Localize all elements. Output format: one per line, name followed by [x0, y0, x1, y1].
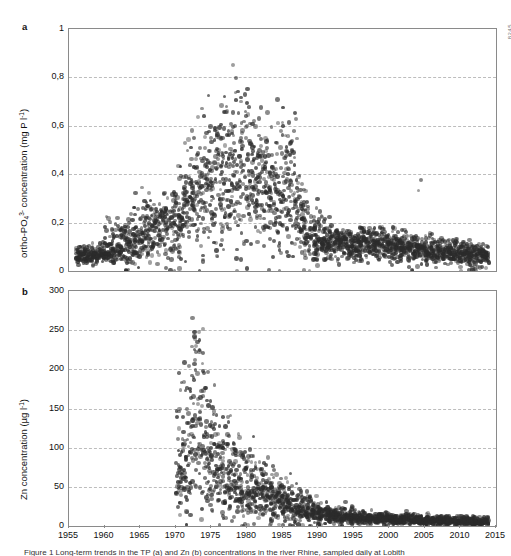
data-point [190, 418, 195, 423]
data-point [289, 178, 292, 181]
data-point [168, 268, 172, 272]
data-point [207, 94, 211, 98]
data-point [253, 500, 257, 504]
data-point [197, 330, 201, 334]
data-point [173, 269, 176, 272]
data-point [224, 189, 228, 193]
data-point [182, 235, 185, 238]
data-point [103, 236, 107, 240]
data-point [193, 197, 197, 201]
data-point [298, 174, 301, 177]
data-point [119, 244, 123, 248]
data-point [312, 257, 317, 262]
data-point [226, 225, 229, 228]
data-point [256, 516, 260, 520]
data-point [229, 414, 232, 417]
data-point [192, 378, 196, 382]
data-point [182, 185, 186, 189]
data-point [275, 152, 279, 156]
data-point [291, 255, 295, 259]
x-tick-label: 1955 [58, 530, 78, 540]
data-point [244, 239, 248, 243]
x-tick-label: 1975 [200, 530, 220, 540]
panel-b-letter: b [22, 286, 28, 297]
data-point [219, 136, 223, 140]
data-point [302, 234, 307, 239]
data-point [238, 202, 242, 206]
data-point [382, 522, 386, 526]
data-point [468, 263, 472, 267]
data-point [210, 195, 213, 198]
data-point [130, 218, 134, 222]
y-tick-label: 250 [30, 324, 64, 334]
data-point [204, 386, 208, 390]
data-point [133, 191, 137, 195]
data-point [214, 221, 217, 224]
data-point [201, 259, 205, 263]
data-point [132, 206, 136, 210]
data-point [289, 160, 293, 164]
data-point [149, 245, 152, 248]
data-point [325, 233, 328, 236]
data-point [153, 210, 157, 214]
data-point [207, 480, 210, 483]
data-point [126, 217, 131, 222]
data-point [242, 163, 246, 167]
data-point [74, 256, 78, 260]
data-point [415, 236, 419, 240]
data-point [274, 161, 278, 165]
data-point [340, 524, 343, 527]
data-point [227, 507, 231, 511]
data-point [176, 505, 180, 509]
x-tick-label: 1970 [165, 530, 185, 540]
data-point [274, 172, 278, 176]
data-point [209, 446, 213, 450]
data-point [138, 248, 142, 252]
data-point [315, 263, 320, 268]
data-point [166, 237, 169, 240]
data-point [270, 153, 274, 157]
data-point [222, 126, 227, 131]
data-point [245, 459, 249, 463]
data-point [191, 223, 195, 227]
x-tick-label: 1965 [129, 530, 149, 540]
data-point [387, 515, 391, 519]
data-point [206, 370, 210, 374]
data-point [251, 171, 255, 175]
data-point [147, 191, 151, 195]
data-point [278, 269, 282, 272]
data-point [434, 266, 438, 270]
data-point [190, 316, 194, 320]
data-point [232, 153, 235, 156]
data-point [198, 146, 202, 150]
x-tick-mark [282, 525, 283, 528]
data-point [247, 105, 251, 109]
data-point [255, 240, 260, 245]
data-point [208, 149, 212, 153]
data-point [264, 504, 268, 508]
data-point [178, 453, 182, 457]
data-point [197, 179, 201, 183]
data-point [253, 124, 258, 129]
data-point [104, 228, 109, 233]
data-point [184, 174, 188, 178]
data-point [174, 201, 178, 205]
data-point [213, 450, 217, 454]
data-point [197, 445, 200, 448]
data-point [195, 371, 200, 376]
data-point [308, 524, 312, 527]
data-point [162, 191, 166, 195]
data-point [218, 491, 221, 494]
data-point [177, 371, 180, 374]
panel-b-plot-area [68, 290, 497, 527]
data-point [304, 240, 308, 244]
data-point [179, 165, 182, 168]
data-point [197, 184, 201, 188]
data-point [210, 458, 214, 462]
data-point [112, 261, 116, 265]
data-point [184, 479, 188, 483]
data-point [185, 211, 189, 215]
data-point [249, 242, 253, 246]
data-point [237, 111, 240, 114]
data-point [198, 472, 201, 475]
